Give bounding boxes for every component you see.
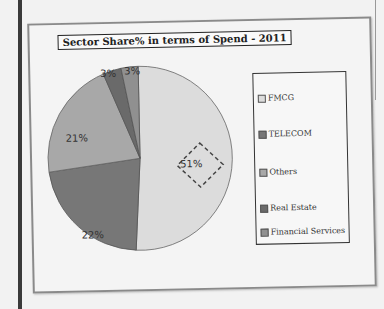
legend-label: TELECOM [268, 129, 311, 139]
legend-label: Real Estate [270, 203, 317, 213]
label-fmcg: 51% [180, 158, 202, 169]
legend-label: FMCG [268, 93, 294, 103]
legend-item-fmcg: FMCG [258, 93, 294, 103]
swatch-icon [259, 168, 267, 176]
adjacent-page-edge [375, 0, 384, 100]
swatch-icon [258, 130, 266, 138]
label-real-estate: 3% [100, 68, 116, 79]
page-edge-bar [18, 0, 22, 309]
legend-item-financial-services: Financial Services [261, 226, 346, 237]
label-financial: 3% [124, 65, 140, 76]
label-telecom: 22% [82, 229, 104, 240]
swatch-icon [258, 94, 266, 102]
chart-legend: FMCG TELECOM Others Real Estate Financia… [252, 71, 350, 245]
legend-label: Others [269, 167, 297, 177]
chart-frame: Sector Share% in terms of Spend - 2011 5… [27, 16, 377, 293]
legend-item-others: Others [259, 167, 297, 177]
legend-label: Financial Services [271, 226, 346, 237]
pie-chart [38, 56, 242, 260]
swatch-icon [260, 204, 268, 212]
label-others: 21% [66, 132, 88, 143]
legend-item-telecom: TELECOM [258, 129, 311, 139]
swatch-icon [261, 228, 269, 236]
legend-item-real-estate: Real Estate [260, 203, 317, 213]
chart-title: Sector Share% in terms of Spend - 2011 [57, 30, 291, 50]
